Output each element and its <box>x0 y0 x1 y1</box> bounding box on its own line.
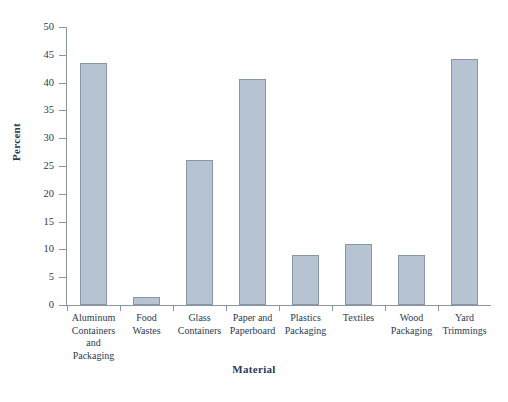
y-axis-tick <box>59 110 67 111</box>
y-axis-title: Percent <box>10 97 22 187</box>
y-axis-tick <box>59 138 67 139</box>
y-axis-tick <box>59 305 67 306</box>
x-axis-category-label-line: Packaging <box>61 350 127 363</box>
x-axis-tick <box>438 305 439 311</box>
y-axis-tick <box>59 83 67 84</box>
x-axis-category-label-line: Yard <box>432 312 498 325</box>
y-axis-tick <box>59 277 67 278</box>
bar-chart: Percent 05101520253035404550 AluminumCon… <box>0 0 508 402</box>
x-axis-tick <box>226 305 227 311</box>
bar <box>451 59 478 305</box>
bar <box>292 255 319 305</box>
bar <box>345 244 372 305</box>
bar <box>398 255 425 305</box>
y-axis-tick <box>59 27 67 28</box>
x-axis-tick <box>173 305 174 311</box>
y-axis-tick <box>59 194 67 195</box>
x-axis-tick <box>67 305 68 311</box>
bar <box>80 63 107 305</box>
plot-area <box>67 27 491 305</box>
x-axis-tick <box>279 305 280 311</box>
x-axis-title: Material <box>0 363 508 375</box>
bar <box>133 297 160 305</box>
x-axis-tick <box>120 305 121 311</box>
x-axis-category-label-line: Trimmings <box>432 325 498 338</box>
y-axis-tick <box>59 166 67 167</box>
x-axis-category-label-line: Packaging <box>273 325 339 338</box>
y-axis-tick <box>59 222 67 223</box>
bar <box>239 79 266 305</box>
x-axis-category-label: YardTrimmings <box>432 312 498 337</box>
x-axis-tick <box>332 305 333 311</box>
bar <box>186 160 213 305</box>
x-axis-tick <box>385 305 386 311</box>
y-axis-tick <box>59 55 67 56</box>
x-axis-category-label-line: and <box>61 337 127 350</box>
y-axis-tick <box>59 249 67 250</box>
